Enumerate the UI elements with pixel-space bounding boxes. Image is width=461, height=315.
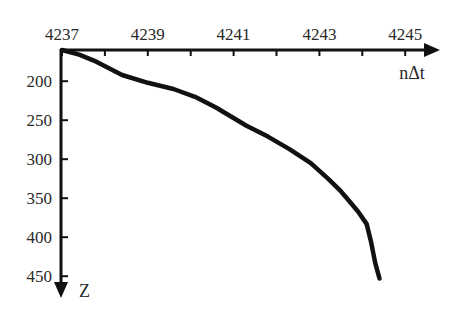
data-line [62,50,380,279]
x-tick-label: 4239 [131,25,165,44]
y-tick-label: 250 [27,111,53,130]
y-axis-title: Z [79,281,90,301]
y-tick-label: 200 [27,72,53,91]
y-axis-arrow-icon [54,282,68,298]
x-tick-label: 4245 [388,25,422,44]
y-tick-label: 300 [27,150,53,169]
y-tick-label: 400 [27,228,53,247]
y-tick-label: 450 [27,267,53,286]
x-tick-label: 4243 [302,25,336,44]
x-axis-tick-labels: 42374239424142434245 [45,25,422,44]
x-axis-title: nΔt [399,63,425,83]
y-axis-tick-labels: 200250300350400450 [27,72,53,286]
x-tick-label: 4237 [45,25,80,44]
depth-time-chart: 42374239424142434245 200250300350400450 … [0,0,461,315]
x-tick-label: 4241 [217,25,251,44]
y-tick-label: 350 [27,189,53,208]
x-axis-arrow-icon [424,43,440,57]
